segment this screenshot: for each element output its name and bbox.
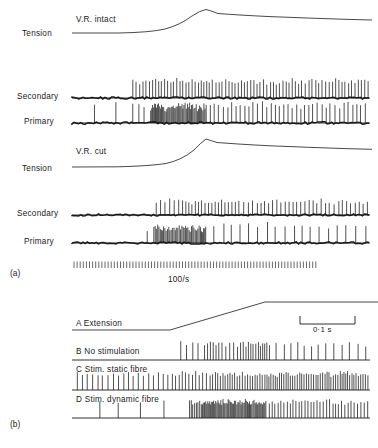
scale-bar-0-1-s bbox=[300, 316, 355, 324]
trace-label-tension-cut: Tension bbox=[22, 165, 52, 173]
tension-trace-vr-intact bbox=[72, 10, 372, 34]
time-marker-ticks bbox=[74, 262, 316, 269]
figure-canvas bbox=[0, 0, 378, 448]
tension-trace-vr-cut bbox=[72, 139, 372, 167]
panel-tag-b: (b) bbox=[10, 419, 20, 429]
spike-train-secondary-vr-cut bbox=[156, 199, 367, 215]
trace-label-tension-intact: Tension bbox=[22, 30, 52, 38]
channel-label-primary-intact: Primary bbox=[24, 118, 54, 126]
condition-label-vr-intact: V.R. intact bbox=[76, 16, 116, 24]
row-label-no-stimulation: B No stimulation bbox=[76, 348, 140, 356]
channel-label-secondary-intact: Secondary bbox=[17, 93, 58, 101]
time-marker-label: 100/s bbox=[168, 276, 189, 284]
scale-bar-label: 0·1 s bbox=[313, 326, 332, 334]
spike-train-secondary-vr-intact bbox=[133, 78, 368, 98]
row-label-stim-static-fibre: C Stim. static fibre bbox=[76, 366, 147, 374]
figure-root: V.R. intact Tension Secondary Primary V.… bbox=[0, 0, 378, 448]
spike-train-no-stimulation bbox=[181, 341, 366, 360]
row-label-extension: A Extension bbox=[76, 320, 122, 328]
spike-train-primary-vr-cut bbox=[147, 222, 366, 243]
panel-tag-a: (a) bbox=[10, 268, 20, 278]
channel-label-secondary-cut: Secondary bbox=[17, 210, 58, 218]
row-label-stim-dynamic-fibre: D Stim. dynamic fibre bbox=[76, 396, 159, 404]
spike-train-primary-vr-intact bbox=[94, 101, 365, 123]
condition-label-vr-cut: V.R. cut bbox=[76, 148, 106, 156]
channel-label-primary-cut: Primary bbox=[24, 238, 54, 246]
baseline-noise-overlay bbox=[72, 97, 369, 244]
